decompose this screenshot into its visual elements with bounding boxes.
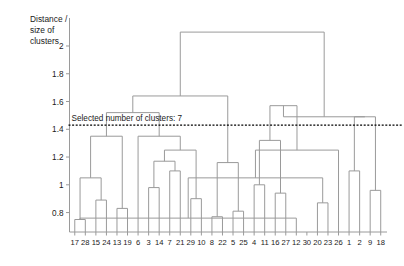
x-tick-label-27: 27 [282, 238, 290, 247]
y-tick-label: 1.2 [52, 153, 64, 162]
dendrogram-link [154, 161, 175, 187]
dendrogram-link [149, 188, 160, 232]
cut-line-label: Selected number of clusters: 7 [72, 114, 183, 123]
x-tick-label-25: 25 [239, 238, 247, 247]
dendrogram-link [91, 136, 123, 208]
x-tick-label-30: 30 [303, 238, 311, 247]
dendrogram-link [354, 117, 375, 191]
x-tick-label-8: 8 [210, 238, 214, 247]
x-tick-label-19: 19 [123, 238, 131, 247]
x-tick-label-15: 15 [92, 238, 100, 247]
x-tick-label-21: 21 [176, 238, 184, 247]
y-tick-label: 2 [59, 42, 64, 51]
dendrogram-link [96, 200, 107, 232]
x-tick-label-2: 2 [358, 238, 362, 247]
y-axis-ticks: 0.811.21.41.61.82 [52, 42, 69, 218]
x-tick-label-11: 11 [261, 238, 269, 247]
x-tick-label-7: 7 [168, 238, 172, 247]
y-tick-label: 1 [59, 181, 64, 190]
dendrogram-link [275, 193, 286, 232]
x-tick-label-26: 26 [334, 238, 342, 247]
dendrogram-links [75, 32, 381, 232]
dendrogram-link [133, 96, 228, 163]
x-tick-label-23: 23 [324, 238, 332, 247]
cut-line-group: Selected number of clusters: 7 [69, 114, 403, 125]
x-tick-label-13: 13 [113, 238, 121, 247]
x-tick-label-9: 9 [368, 238, 372, 247]
dendrogram-link [75, 220, 86, 232]
x-tick-label-17: 17 [71, 238, 79, 247]
y-tick-label: 1.6 [52, 98, 64, 107]
dendrogram-link [254, 185, 265, 232]
y-axis-title-line-3: clusters [30, 36, 59, 46]
dendrogram-link [370, 190, 381, 232]
x-tick-label-28: 28 [81, 238, 89, 247]
dendrogram-link [191, 199, 202, 232]
dendrogram-link [317, 203, 328, 232]
y-axis-title-line-2: size of [30, 25, 55, 35]
dendrogram-chart: Distance / size of clusters 0.811.21.41.… [0, 0, 404, 266]
x-tick-label-22: 22 [218, 238, 226, 247]
x-tick-label-10: 10 [197, 238, 205, 247]
dendrogram-link [212, 217, 223, 232]
x-tick-label-20: 20 [313, 238, 321, 247]
dendrogram-link [80, 218, 296, 232]
dendrogram-link [255, 150, 338, 232]
y-axis-title-line-1: Distance / [30, 14, 68, 24]
y-tick-label: 0.8 [52, 209, 64, 218]
x-tick-label-1: 1 [347, 238, 351, 247]
x-tick-label-18: 18 [376, 238, 384, 247]
x-tick-label-12: 12 [292, 238, 300, 247]
dendrogram-link [170, 171, 181, 232]
x-tick-label-4: 4 [252, 238, 256, 247]
dendrogram-link [349, 171, 360, 232]
x-tick-label-24: 24 [102, 238, 110, 247]
y-tick-label: 1.8 [52, 70, 64, 79]
dendrogram-link [217, 163, 238, 217]
y-tick-label: 1.4 [52, 125, 64, 134]
x-tick-label-16: 16 [271, 238, 279, 247]
dendrogram-link [233, 211, 244, 232]
x-tick-label-14: 14 [155, 238, 163, 247]
dendrogram-link [180, 32, 324, 117]
x-tick-label-3: 3 [147, 238, 151, 247]
x-tick-label-5: 5 [231, 238, 235, 247]
dendrogram-link [80, 178, 101, 220]
x-tick-label-6: 6 [136, 238, 140, 247]
dendrogram-link [188, 178, 323, 218]
dendrogram-link [117, 208, 128, 232]
x-axis-ticks: 1728152413196314721291082252541116271230… [71, 232, 385, 247]
x-tick-label-29: 29 [187, 238, 195, 247]
